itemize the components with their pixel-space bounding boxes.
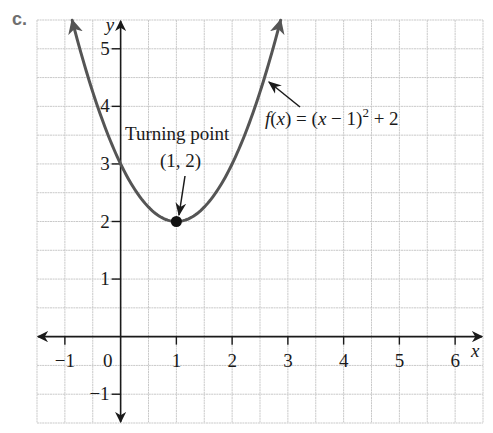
x-tick-label: 4 xyxy=(339,350,349,371)
x-axis-label: x xyxy=(470,340,480,361)
y-tick-label: 2 xyxy=(100,211,110,232)
y-tick-label: 5 xyxy=(100,38,110,59)
function-label: f(x) = (x − 1)2 + 2 xyxy=(265,105,399,130)
y-tick-label: 3 xyxy=(100,153,110,174)
turning-point-label: Turning point xyxy=(125,123,230,144)
y-axis-label: y xyxy=(104,14,115,35)
x-tick-label: 3 xyxy=(283,350,293,371)
fn-equals: ) = ( xyxy=(285,108,318,130)
x-tick-label: −1 xyxy=(55,350,75,371)
y-tick-label: 4 xyxy=(100,95,110,116)
x-tick-label: 0 xyxy=(103,350,113,371)
y-tick-label: −1 xyxy=(89,383,109,404)
turning-point-marker xyxy=(171,216,182,227)
x-tick-label: 6 xyxy=(450,350,460,371)
function-label-arrow xyxy=(269,82,300,107)
x-tick-label: 2 xyxy=(227,350,237,371)
vertex-coordinates-label: (1, 2) xyxy=(160,150,201,172)
turning-point-arrow xyxy=(179,176,185,215)
parabola-graph: −10123456−112345 x y Turning point (1, 2… xyxy=(0,0,493,433)
fn-minus: − 1) xyxy=(326,108,362,130)
x-tick-label: 5 xyxy=(395,350,405,371)
y-tick-label: 1 xyxy=(100,268,110,289)
x-tick-label: 1 xyxy=(172,350,182,371)
fn-tail: + 2 xyxy=(369,108,399,129)
